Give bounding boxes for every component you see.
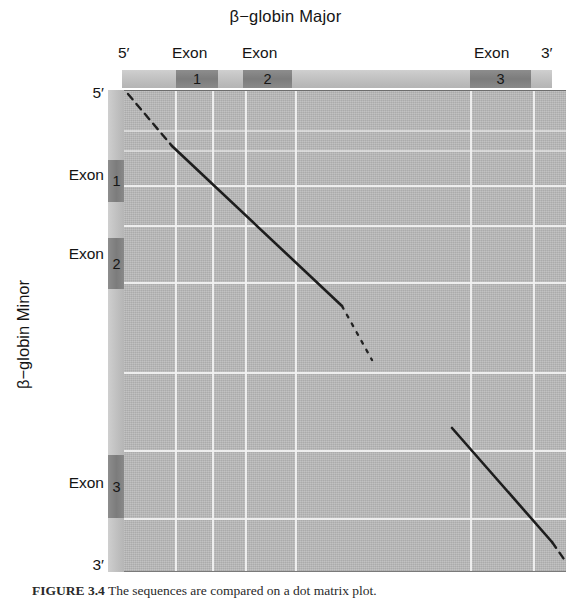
figure-caption-text: The sequences are compared on a dot matr… xyxy=(108,583,377,598)
left-label-exon-2: Exon xyxy=(0,245,104,263)
top-exon-block-2-number: 2 xyxy=(243,70,292,88)
top-exon-block-3-number: 3 xyxy=(470,70,531,88)
top-label-exon-2: Exon xyxy=(242,44,277,62)
top-label-exon-3: Exon xyxy=(474,44,509,62)
left-exon-block-3-number: 3 xyxy=(108,478,125,496)
top-label-three-prime: 3′ xyxy=(541,44,553,62)
diagonal-segment-3prime-dashed xyxy=(552,542,566,562)
diagonal-segment-exon1-exon2-solid xyxy=(172,146,342,306)
top-exon-block-1-number: 1 xyxy=(176,70,218,88)
page-title: β−globin Major xyxy=(0,7,571,26)
left-gene-bar xyxy=(108,90,125,572)
left-label-exon-3: Exon xyxy=(0,474,104,492)
left-exon-block-2-number: 2 xyxy=(108,255,125,273)
top-label-five-prime: 5′ xyxy=(118,44,130,62)
top-label-exon-1: Exon xyxy=(172,44,207,62)
diagonal-segment-intron2-fading xyxy=(342,306,372,360)
dot-matrix-plot-area xyxy=(124,90,566,572)
figure-caption: FIGURE 3.4 The sequences are compared on… xyxy=(32,583,562,599)
diagonal-segment-5prime-dashed xyxy=(128,94,172,146)
left-label-three-prime: 3′ xyxy=(0,556,104,574)
sequence-match-diagonal xyxy=(124,90,566,572)
figure-caption-number: FIGURE 3.4 xyxy=(32,583,105,598)
left-exon-block-1-number: 1 xyxy=(108,172,125,190)
left-label-exon-1: Exon xyxy=(0,166,104,184)
diagonal-segment-exon3-solid xyxy=(452,428,552,542)
y-axis-title: β−globin Minor xyxy=(14,240,33,430)
left-label-five-prime: 5′ xyxy=(0,84,104,102)
